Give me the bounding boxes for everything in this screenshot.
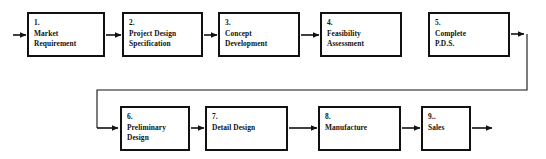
node-2-line-2: Specification (129, 39, 201, 50)
node-5-number: 5. (435, 18, 508, 29)
process-flowchart: 1. Market Requirement 2. Project Design … (0, 0, 546, 159)
node-3-line-2: Development (225, 39, 298, 50)
process-node-6-preliminary-design[interactable]: 6. Preliminary Design (120, 106, 190, 151)
node-5-line-1: Complete (435, 29, 508, 40)
node-1-number: 1. (34, 18, 103, 29)
node-4-line-2: Assessment (327, 39, 400, 50)
node-9-number: 9.. (428, 112, 469, 123)
node-6-line-1: Preliminary (127, 123, 188, 134)
node-4-number: 4. (327, 18, 400, 29)
process-node-3-concept-development[interactable]: 3. Concept Development (218, 12, 300, 57)
node-3-line-1: Concept (225, 29, 298, 40)
process-node-7-detail-design[interactable]: 7. Detail Design (205, 106, 288, 151)
node-8-line-1: Manufacture (325, 123, 399, 134)
process-node-8-manufacture[interactable]: 8. Manufacture (318, 106, 401, 151)
node-1-line-2: Requirement (34, 39, 103, 50)
node-5-line-2: P.D.S. (435, 39, 508, 50)
node-3-number: 3. (225, 18, 298, 29)
node-9-line-1: Sales (428, 123, 469, 134)
node-8-number: 8. (325, 112, 399, 123)
node-2-line-1: Project Design (129, 29, 201, 40)
process-node-2-project-design-specification[interactable]: 2. Project Design Specification (122, 12, 203, 57)
process-node-1-market-requirement[interactable]: 1. Market Requirement (27, 12, 105, 57)
process-node-5-complete-pds[interactable]: 5. Complete P.D.S. (428, 12, 510, 57)
node-7-line-1: Detail Design (212, 123, 286, 134)
node-2-number: 2. (129, 18, 201, 29)
process-node-9-sales[interactable]: 9.. Sales (421, 106, 471, 151)
process-node-4-feasibility-assessment[interactable]: 4. Feasibility Assessment (320, 12, 402, 57)
node-1-line-1: Market (34, 29, 103, 40)
node-4-line-1: Feasibility (327, 29, 400, 40)
node-6-number: 6. (127, 112, 188, 123)
node-6-line-2: Design (127, 133, 188, 144)
node-7-number: 7. (212, 112, 286, 123)
